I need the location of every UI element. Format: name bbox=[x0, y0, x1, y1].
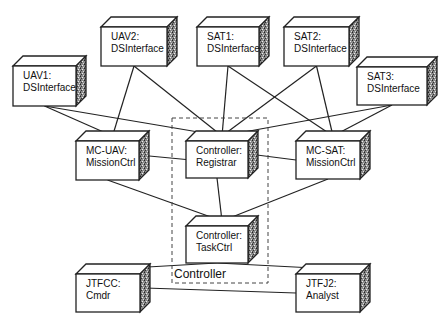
connection-creg-ctask bbox=[217, 178, 222, 221]
node-label-jtfj2: JTFJ2:Analyst bbox=[306, 278, 339, 302]
node-instance-name: SAT2: bbox=[294, 31, 347, 43]
node-type-name: MissionCtrl bbox=[306, 157, 355, 169]
node-type-name: DSInterface bbox=[207, 43, 260, 55]
node-type-name: MissionCtrl bbox=[86, 157, 135, 169]
node-type-name: Registrar bbox=[196, 157, 242, 169]
node-label-mcuav: MC-UAV:MissionCtrl bbox=[86, 145, 135, 169]
node-instance-name: Controller: bbox=[196, 230, 242, 242]
node-instance-name: MC-SAT: bbox=[306, 145, 355, 157]
node-instance-name: JTFCC: bbox=[86, 278, 120, 290]
connection-jtfcc-jtfj2 bbox=[145, 288, 296, 293]
node-label-uav1: UAV1:DSInterface bbox=[23, 70, 76, 94]
node-type-name: TaskCtrl bbox=[196, 242, 242, 254]
node-instance-name: Controller: bbox=[196, 145, 242, 157]
controller-package-label: Controller bbox=[174, 267, 226, 281]
connection-sat2-creg bbox=[222, 66, 317, 136]
connection-sat1-creg bbox=[222, 66, 228, 136]
connection-uav2-mcuav bbox=[113, 66, 135, 136]
node-label-sat1: SAT1:DSInterface bbox=[207, 31, 260, 55]
node-type-name: DSInterface bbox=[294, 43, 347, 55]
node-label-ctask: Controller:TaskCtrl bbox=[196, 230, 242, 254]
node-type-name: Cmdr bbox=[86, 290, 120, 302]
connection-mcsat-creg bbox=[253, 155, 296, 161]
node-instance-name: JTFJ2: bbox=[306, 278, 339, 290]
connection-mcuav-creg bbox=[144, 156, 186, 160]
connection-mcsat-ctask bbox=[222, 179, 328, 221]
node-label-uav2: UAV2:DSInterface bbox=[111, 31, 164, 55]
node-label-creg: Controller:Registrar bbox=[196, 145, 242, 169]
connection-sat2-mcsat bbox=[317, 66, 334, 136]
node-instance-name: UAV1: bbox=[23, 70, 76, 82]
node-instance-name: UAV2: bbox=[111, 31, 164, 43]
node-type-name: DSInterface bbox=[111, 43, 164, 55]
connection-mcuav-ctask bbox=[108, 180, 223, 221]
node-type-name: DSInterface bbox=[23, 82, 76, 94]
node-type-name: DSInterface bbox=[367, 83, 420, 95]
node-type-name: Analyst bbox=[306, 290, 339, 302]
node-label-sat2: SAT2:DSInterface bbox=[294, 31, 347, 55]
node-label-jtfcc: JTFCC:Cmdr bbox=[86, 278, 120, 302]
node-instance-name: MC-UAV: bbox=[86, 145, 135, 157]
node-label-sat3: SAT3:DSInterface bbox=[367, 71, 420, 95]
connection-uav2-creg bbox=[134, 66, 222, 136]
node-instance-name: SAT1: bbox=[207, 31, 260, 43]
node-instance-name: SAT3: bbox=[367, 71, 420, 83]
node-label-mcsat: MC-SAT:MissionCtrl bbox=[306, 145, 355, 169]
deployment-diagram: UAV1:DSInterfaceUAV2:DSInterfaceSAT1:DSI… bbox=[0, 0, 445, 330]
